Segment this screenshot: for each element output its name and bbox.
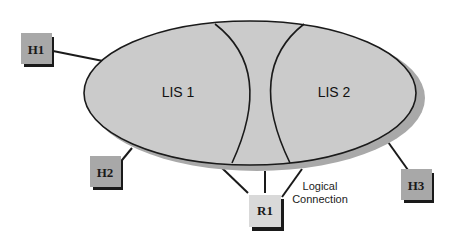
node-h3-label: H3 [408, 178, 425, 193]
node-h1[interactable]: H1 [21, 33, 54, 67]
node-h2[interactable]: H2 [90, 156, 123, 190]
node-r1-label: R1 [257, 203, 273, 218]
lis1-label: LIS 1 [162, 84, 195, 100]
node-h2-label: H2 [97, 165, 114, 180]
lis2-label: LIS 2 [318, 84, 351, 100]
link-h3 [388, 142, 408, 170]
logical-connection-label-line1: Logical [303, 180, 338, 192]
logical-connection-label-line2: Connection [292, 193, 348, 205]
lis-diagram: LIS 1 LIS 2 H1 H2 H3 R1 Logical Connecti… [0, 0, 454, 243]
node-h3[interactable]: H3 [401, 169, 434, 203]
node-r1[interactable]: R1 [249, 195, 284, 231]
node-h1-label: H1 [28, 42, 45, 57]
link-r1-lis1 [222, 168, 248, 193]
